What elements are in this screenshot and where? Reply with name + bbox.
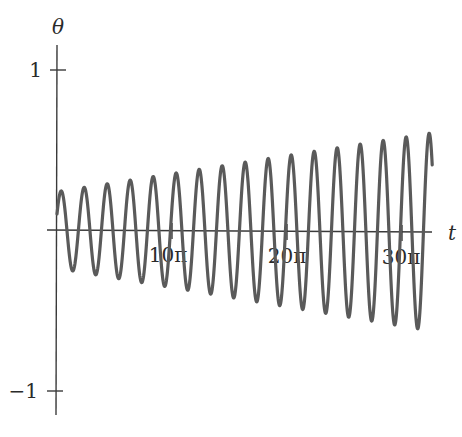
chart: 1 −1 10π 20π 30π θ t bbox=[0, 0, 462, 437]
y-tick-label: −1 bbox=[9, 379, 38, 403]
y-axis-label: θ bbox=[52, 15, 64, 39]
x-axis-label: t bbox=[448, 221, 457, 245]
y-tick-1: 1 bbox=[29, 58, 66, 82]
y-tick-label: 1 bbox=[29, 58, 42, 82]
y-tick-neg1: −1 bbox=[9, 379, 63, 403]
